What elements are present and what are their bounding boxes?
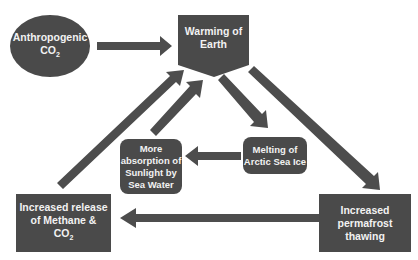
node-increased-methane-co2: Increased release of Methane & CO2 — [16, 194, 111, 252]
arrow-permafrost-to-methane — [120, 208, 333, 228]
melting-line2: Arctic Sea Ice — [244, 156, 306, 168]
arrow-melting-to-absorption — [185, 146, 241, 166]
node-more-absorption-sunlight: More absorption of Sunlight by Sea Water — [120, 139, 182, 194]
absorption-line1: More — [121, 143, 182, 155]
methane-line2: of Methane & — [19, 214, 107, 227]
methane-line1: Increased release — [19, 201, 107, 214]
node-anthropogenic-co2: Anthropogenic CO2 — [10, 15, 90, 77]
anthropogenic-line2: CO2 — [13, 44, 88, 61]
permafrost-line3: thawing — [338, 230, 393, 243]
permafrost-line1: Increased — [338, 204, 393, 217]
absorption-line2: absorption of — [121, 155, 182, 167]
methane-line3: CO2 — [19, 227, 107, 244]
permafrost-line2: permafrost — [338, 217, 393, 230]
node-increased-permafrost-thawing: Increased permafrost thawing — [319, 194, 411, 252]
absorption-line4: Sea Water — [121, 179, 182, 191]
node-melting-arctic-sea-ice: Melting of Arctic Sea Ice — [243, 137, 307, 174]
arrow-anthropogenic-to-warming — [97, 36, 172, 56]
melting-line1: Melting of — [244, 144, 306, 156]
warming-line1: Warming of — [185, 25, 242, 38]
absorption-line3: Sunlight by — [121, 167, 182, 179]
warming-line2: Earth — [185, 38, 242, 51]
feedback-loop-diagram: Anthropogenic CO2 Warming of Earth Melti… — [0, 0, 418, 260]
anthropogenic-line1: Anthropogenic — [13, 31, 88, 44]
node-warming-of-earth: Warming of Earth — [178, 18, 249, 58]
